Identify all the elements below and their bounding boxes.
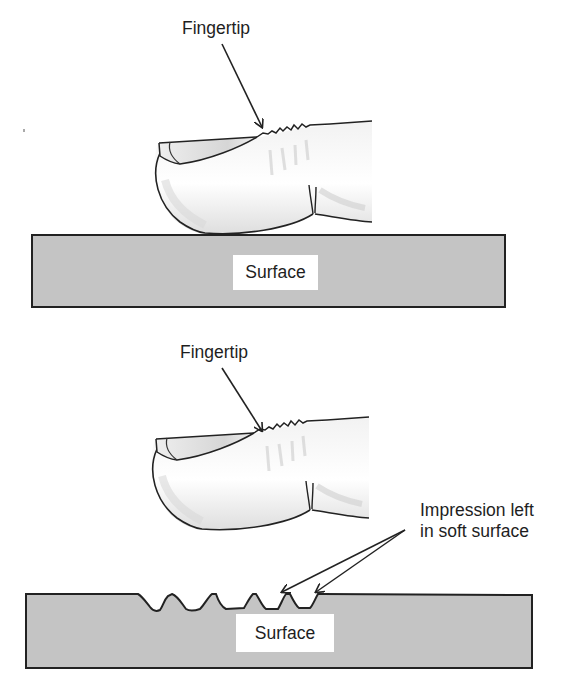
impression-arrow-1 [282, 530, 405, 592]
surface-label-top: Surface [233, 255, 318, 290]
fingerprint-impression-diagram [0, 0, 571, 684]
fingertip-arrow-bottom [222, 368, 262, 431]
impression-annotation-line1: Impression left [420, 500, 534, 521]
impression-annotation: Impression left in soft surface [420, 500, 534, 542]
fingertip-label-bottom: Fingertip [180, 342, 248, 362]
finger-illustration-top [154, 121, 372, 234]
speck [23, 129, 25, 132]
fingertip-arrow-top [222, 44, 262, 127]
surface-label-bottom: Surface [236, 614, 334, 652]
impression-annotation-line2: in soft surface [420, 521, 534, 542]
fingertip-label-top: Fingertip [182, 18, 250, 38]
impression-arrow-2 [316, 530, 405, 592]
finger-illustration-bottom [151, 417, 369, 530]
